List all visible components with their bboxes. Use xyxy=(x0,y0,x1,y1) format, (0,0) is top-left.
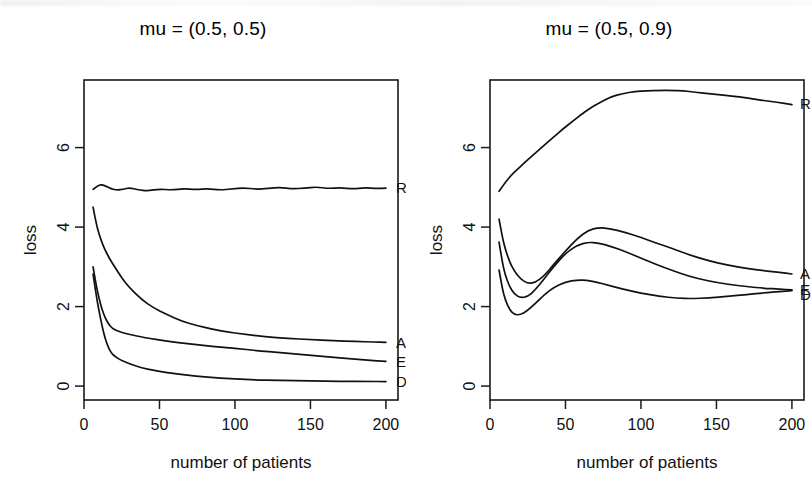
panel-right-plot: 0501001502000246lossnumber of patientsRA… xyxy=(406,0,812,491)
x-tick-label: 100 xyxy=(222,416,249,433)
series-line-r xyxy=(499,90,792,191)
x-tick-label: 200 xyxy=(779,416,806,433)
y-tick-label: 4 xyxy=(56,223,73,232)
panel-left-plot: 0501001502000246lossnumber of patientsRA… xyxy=(0,0,406,491)
series-line-e xyxy=(93,267,386,362)
y-tick-label: 4 xyxy=(462,223,479,232)
series-label-r: R xyxy=(396,179,406,196)
chart-panel-right: mu = (0.5, 0.9) 0501001502000246lossnumb… xyxy=(406,0,812,491)
y-tick-label: 2 xyxy=(462,302,479,311)
y-tick-label: 6 xyxy=(56,143,73,152)
series-label-d: D xyxy=(396,373,406,390)
series-line-a xyxy=(93,207,386,342)
x-tick-label: 200 xyxy=(373,416,400,433)
chart-panel-left: mu = (0.5, 0.5) 0501001502000246lossnumb… xyxy=(0,0,406,491)
y-axis-title: loss xyxy=(21,225,40,255)
x-tick-label: 0 xyxy=(486,416,495,433)
x-axis-title: number of patients xyxy=(171,453,312,472)
y-tick-label: 0 xyxy=(56,382,73,391)
series-label-r: R xyxy=(800,95,811,112)
series-line-a xyxy=(499,219,792,283)
series-label-a: A xyxy=(800,265,810,282)
y-axis-title: loss xyxy=(427,225,446,255)
series-label-e: E xyxy=(396,353,406,370)
series-line-d xyxy=(93,274,386,382)
figure-root: mu = (0.5, 0.5) 0501001502000246lossnumb… xyxy=(0,0,812,491)
y-tick-label: 6 xyxy=(462,143,479,152)
x-tick-label: 150 xyxy=(297,416,324,433)
series-line-e xyxy=(499,242,792,297)
y-tick-label: 0 xyxy=(462,382,479,391)
y-tick-label: 2 xyxy=(56,302,73,311)
x-tick-label: 50 xyxy=(151,416,169,433)
x-tick-label: 50 xyxy=(557,416,575,433)
x-tick-label: 100 xyxy=(628,416,655,433)
series-line-r xyxy=(93,185,386,191)
plot-frame xyxy=(84,80,398,400)
x-tick-label: 0 xyxy=(80,416,89,433)
series-label-d: D xyxy=(800,286,811,303)
x-axis-title: number of patients xyxy=(577,453,718,472)
x-tick-label: 150 xyxy=(703,416,730,433)
series-label-a: A xyxy=(396,334,406,351)
